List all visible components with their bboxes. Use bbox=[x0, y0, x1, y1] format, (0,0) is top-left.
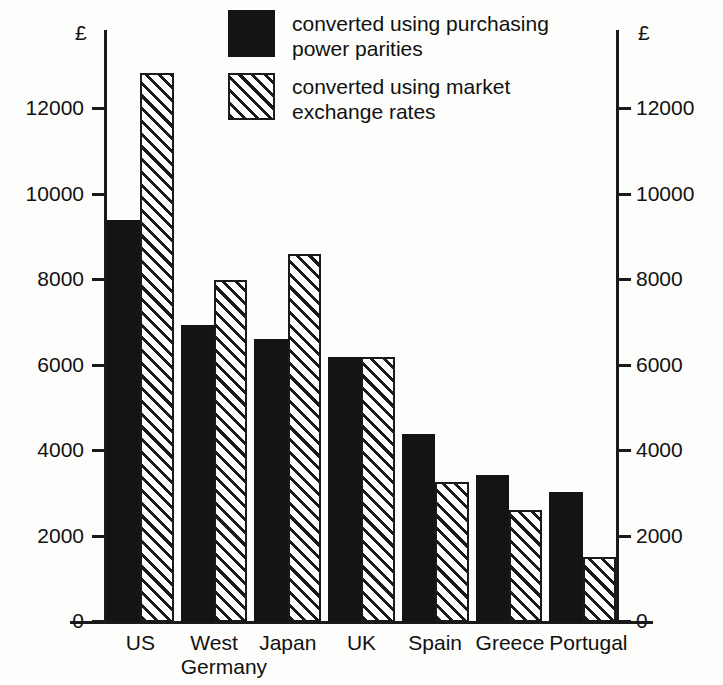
x-category-label-us: US bbox=[107, 631, 174, 655]
bar-us-series-1 bbox=[107, 220, 140, 622]
y-axis-left-unit: £ bbox=[75, 22, 87, 43]
y-tick-right-10000 bbox=[618, 193, 631, 196]
y-tick-right-4000 bbox=[618, 449, 631, 452]
bar-greece-series-1 bbox=[476, 475, 509, 622]
y-tick-label-right-6000: 6000 bbox=[636, 354, 683, 375]
bar-japan-series-1 bbox=[254, 339, 287, 622]
bar-group-portugal bbox=[549, 30, 616, 622]
legend-item-2: converted using market exchange rates bbox=[228, 73, 549, 124]
y-tick-right-2000 bbox=[618, 535, 631, 538]
y-tick-left-0 bbox=[92, 620, 105, 623]
bar-portugal-series-2 bbox=[583, 557, 616, 622]
bar-us-series-2 bbox=[140, 73, 173, 622]
legend-label-1: converted using purchasing power paritie… bbox=[292, 10, 549, 61]
y-tick-label-right-4000: 4000 bbox=[636, 439, 683, 460]
bar-portugal-series-1 bbox=[549, 492, 582, 622]
y-tick-right-0 bbox=[618, 620, 631, 623]
y-tick-label-right-10000: 10000 bbox=[636, 183, 694, 204]
y-tick-label-left-10000: 10000 bbox=[26, 183, 84, 204]
y-tick-left-6000 bbox=[92, 364, 105, 367]
x-category-label-west-germany: West Germany bbox=[181, 631, 248, 679]
y-tick-label-left-0: 0 bbox=[72, 610, 84, 631]
y-tick-left-2000 bbox=[92, 535, 105, 538]
y-tick-right-12000 bbox=[618, 107, 631, 110]
x-category-label-greece: Greece bbox=[476, 631, 543, 655]
legend-swatch-hatched-icon bbox=[228, 73, 275, 120]
x-category-label-uk: UK bbox=[328, 631, 395, 655]
y-tick-left-10000 bbox=[92, 193, 105, 196]
bar-uk-series-1 bbox=[328, 357, 361, 622]
bar-group-us bbox=[107, 30, 174, 622]
chart-legend: converted using purchasing power paritie… bbox=[228, 10, 549, 136]
bar-uk-series-2 bbox=[361, 357, 394, 622]
y-tick-right-6000 bbox=[618, 364, 631, 367]
y-tick-label-left-2000: 2000 bbox=[37, 525, 84, 546]
legend-swatch-solid-icon bbox=[228, 10, 275, 57]
x-category-label-spain: Spain bbox=[402, 631, 469, 655]
bar-west-germany-series-1 bbox=[181, 325, 214, 622]
legend-item-1: converted using purchasing power paritie… bbox=[228, 10, 549, 61]
y-tick-right-8000 bbox=[618, 278, 631, 281]
bar-spain-series-2 bbox=[435, 482, 468, 622]
y-tick-label-left-8000: 8000 bbox=[37, 268, 84, 289]
bar-japan-series-2 bbox=[288, 254, 321, 622]
bar-west-germany-series-2 bbox=[214, 280, 247, 622]
y-tick-label-left-6000: 6000 bbox=[37, 354, 84, 375]
y-tick-label-right-2000: 2000 bbox=[636, 525, 683, 546]
bar-greece-series-2 bbox=[509, 510, 542, 622]
y-axis-right-unit: £ bbox=[638, 22, 650, 43]
y-tick-left-12000 bbox=[92, 107, 105, 110]
y-tick-label-left-4000: 4000 bbox=[37, 439, 84, 460]
x-category-label-japan: Japan bbox=[254, 631, 321, 655]
bar-chart: £ £ 002000200040004000600060008000800010… bbox=[0, 0, 723, 685]
y-tick-label-right-0: 0 bbox=[636, 610, 648, 631]
y-tick-label-right-8000: 8000 bbox=[636, 268, 683, 289]
x-category-label-portugal: Portugal bbox=[549, 631, 616, 655]
y-tick-label-left-12000: 12000 bbox=[26, 97, 84, 118]
y-tick-label-right-12000: 12000 bbox=[636, 97, 694, 118]
legend-label-2: converted using market exchange rates bbox=[292, 73, 510, 124]
bar-spain-series-1 bbox=[402, 434, 435, 622]
y-tick-left-8000 bbox=[92, 278, 105, 281]
y-tick-left-4000 bbox=[92, 449, 105, 452]
